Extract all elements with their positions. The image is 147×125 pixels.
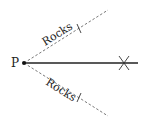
upper-tick-mark	[77, 24, 81, 33]
diagram-canvas: P Rocks Rocks	[0, 0, 147, 125]
upper-dashed-boundary	[24, 10, 108, 63]
point-label: P	[11, 56, 19, 70]
origin-point-dot	[22, 61, 26, 65]
lower-rocks-label: Rocks	[43, 76, 78, 105]
